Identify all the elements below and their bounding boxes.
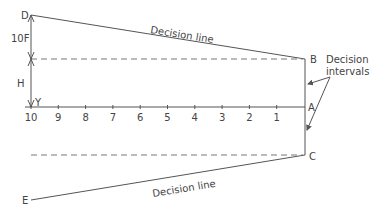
axis-tick-label: 10 [25, 112, 38, 123]
axis-tick-labels: 10987654321 [25, 112, 280, 123]
axis-tick-label: 4 [192, 112, 198, 123]
annotation-line1: Decision [326, 54, 369, 65]
v-mask-diagram: D B A C E Y 10F H Decision line Decision… [0, 0, 386, 215]
label-d: D [21, 10, 29, 21]
label-b: B [310, 54, 317, 65]
label-c: C [309, 151, 316, 162]
upper-decision-line-label: Decision line [150, 24, 215, 45]
annotation-arrow-upper [308, 77, 330, 84]
label-10f: 10F [11, 33, 30, 44]
label-h: H [17, 78, 25, 89]
lower-decision-line-label: Decision line [152, 178, 217, 199]
axis-tick-label: 2 [246, 112, 252, 123]
label-y: Y [34, 97, 42, 108]
annotation-line2: intervals [326, 66, 369, 77]
label-a: A [308, 102, 315, 113]
axis-tick-label: 6 [137, 112, 143, 123]
axis-tick-label: 9 [55, 112, 61, 123]
axis-tick-label: 5 [164, 112, 170, 123]
axis-tick-label: 7 [110, 112, 116, 123]
label-e: E [22, 195, 28, 206]
axis-tick-label: 1 [274, 112, 280, 123]
axis-tick-label: 3 [219, 112, 225, 123]
axis-tick-label: 8 [82, 112, 88, 123]
